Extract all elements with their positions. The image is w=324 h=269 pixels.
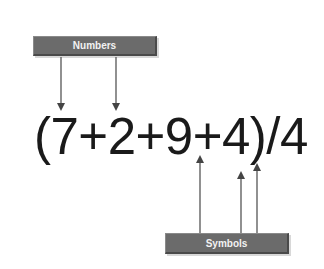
numbers-label: Numbers [73, 40, 116, 51]
expression: (7+2+9+4)/4 [34, 108, 308, 166]
symbols-label-box: Symbols [165, 233, 289, 254]
diagram-canvas: Numbers (7+2+9+4)/4 Symbols [0, 0, 324, 269]
numbers-label-box: Numbers [33, 36, 157, 56]
symbols-label: Symbols [206, 238, 248, 249]
